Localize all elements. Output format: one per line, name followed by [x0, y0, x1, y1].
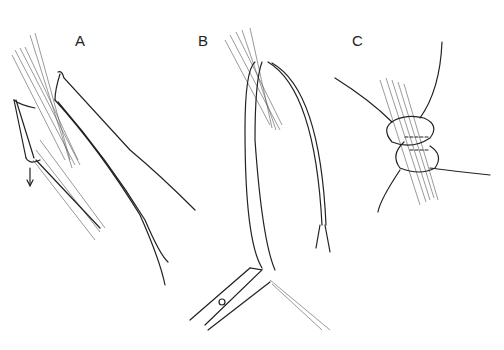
- panel-a-drawing: [12, 33, 195, 285]
- panel-b-drawing: [190, 28, 330, 330]
- illustration: [0, 0, 504, 350]
- panel-c-drawing: [335, 42, 490, 212]
